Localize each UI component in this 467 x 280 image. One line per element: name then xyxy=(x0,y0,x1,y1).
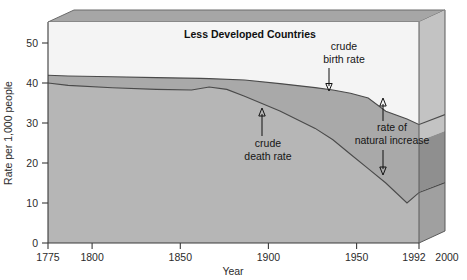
rate-of-natural-increase-label-line1: rate of xyxy=(377,121,407,133)
x-tick-label-1850: 1850 xyxy=(169,251,193,263)
x-tick-label-1992: 1992 xyxy=(402,251,426,263)
crude-birth-rate-label-line2: birth rate xyxy=(323,53,365,65)
box-side-face-light xyxy=(419,10,445,141)
x-tick-label-1950: 1950 xyxy=(345,251,369,263)
x-tick-label-2000: 2000 xyxy=(435,251,459,263)
y-axis-ticks xyxy=(42,43,48,243)
y-tick-label-0: 0 xyxy=(32,237,38,249)
crude-birth-rate-label-line1: crude xyxy=(331,40,357,52)
box-top-face xyxy=(48,10,445,22)
rate-of-natural-increase-label-line2: natural increase xyxy=(355,134,430,146)
y-tick-label-40: 40 xyxy=(26,77,38,89)
y-tick-label-20: 20 xyxy=(26,157,38,169)
x-tick-label-1800: 1800 xyxy=(80,251,104,263)
y-tick-label-10: 10 xyxy=(26,197,38,209)
crude-death-rate-label-line2: death rate xyxy=(244,150,291,162)
demographic-transition-chart: 0 10 20 30 40 50 1775 1800 1850 1900 195… xyxy=(0,0,467,280)
y-tick-label-30: 30 xyxy=(26,117,38,129)
x-tick-label-1775: 1775 xyxy=(36,251,60,263)
x-axis-title: Year xyxy=(222,265,244,277)
crude-death-rate-label-line1: crude xyxy=(255,137,281,149)
y-tick-label-50: 50 xyxy=(26,37,38,49)
x-tick-label-1900: 1900 xyxy=(257,251,281,263)
chart-title: Less Developed Countries xyxy=(184,28,316,40)
y-axis-title: Rate per 1,000 people xyxy=(2,81,14,185)
x-axis-ticks xyxy=(48,243,419,249)
